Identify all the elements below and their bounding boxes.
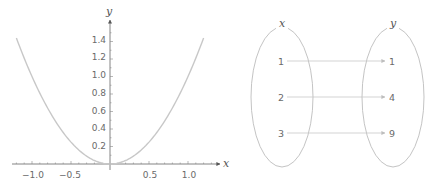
codomain-label: y — [389, 17, 397, 30]
y-tick-label: 0.6 — [92, 106, 107, 116]
codomain-value: 1 — [389, 56, 395, 67]
y-tick-label: 0.8 — [92, 88, 107, 98]
mapping-diagram: x y 1 2 3 1 4 9 — [251, 17, 424, 167]
x-tick-label: −1.0 — [22, 170, 44, 180]
domain-value: 2 — [278, 92, 284, 103]
parabola-plot: x y −1.0 −0.5 0.5 1.0 0.2 0.4 0.6 0.8 1.… — [12, 5, 230, 180]
domain-label: x — [279, 17, 286, 30]
figure-canvas: x y −1.0 −0.5 0.5 1.0 0.2 0.4 0.6 0.8 1.… — [0, 0, 435, 189]
y-ticks — [110, 33, 113, 156]
x-tick-label: 0.5 — [143, 170, 157, 180]
codomain-value: 9 — [389, 128, 395, 139]
x-tick-label: −0.5 — [59, 170, 81, 180]
x-tick-label: 1.0 — [182, 170, 197, 180]
y-tick-label: 0.4 — [92, 123, 107, 133]
x-axis-label: x — [223, 157, 230, 170]
y-tick-label: 1.0 — [92, 70, 107, 80]
y-axis-label: y — [105, 5, 113, 18]
y-tick-label: 0.2 — [92, 141, 106, 151]
domain-value: 3 — [278, 128, 284, 139]
codomain-value: 4 — [389, 92, 395, 103]
y-tick-label: 1.2 — [92, 52, 106, 62]
y-tick-label: 1.4 — [92, 35, 107, 45]
domain-value: 1 — [278, 56, 284, 67]
